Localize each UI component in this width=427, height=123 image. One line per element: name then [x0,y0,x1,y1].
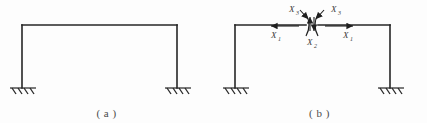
svg-text:1: 1 [278,36,281,42]
label-shear: X 2 [306,37,317,49]
right-fixed-support-b [378,88,404,94]
label-axial-left: X 1 [270,30,281,42]
svg-text:1: 1 [350,36,353,42]
figure-canvas: ( a ) [0,0,427,123]
svg-text:3: 3 [337,10,341,16]
svg-text:3: 3 [295,10,299,16]
panel-a-drawing [0,0,213,123]
left-fixed-support-b [223,88,249,94]
caption-b: ( b ) [213,107,426,119]
svg-text:X: X [330,4,337,14]
left-fixed-support-a [10,88,36,94]
svg-text:X: X [288,4,295,14]
label-axial-right: X 1 [342,30,353,42]
panel-b: X 3 X 3 X 2 X 1 X 1 [213,0,426,123]
label-moment-right: X 3 [330,4,341,16]
panel-a: ( a ) [0,0,213,123]
panel-b-drawing: X 3 X 3 X 2 X 1 X 1 [213,0,426,123]
caption-a: ( a ) [0,107,213,119]
label-moment-left: X 3 [288,4,299,16]
svg-text:X: X [306,37,313,47]
svg-text:X: X [342,30,349,40]
right-fixed-support-a [165,88,191,94]
svg-text:2: 2 [314,43,317,49]
svg-text:X: X [270,30,277,40]
